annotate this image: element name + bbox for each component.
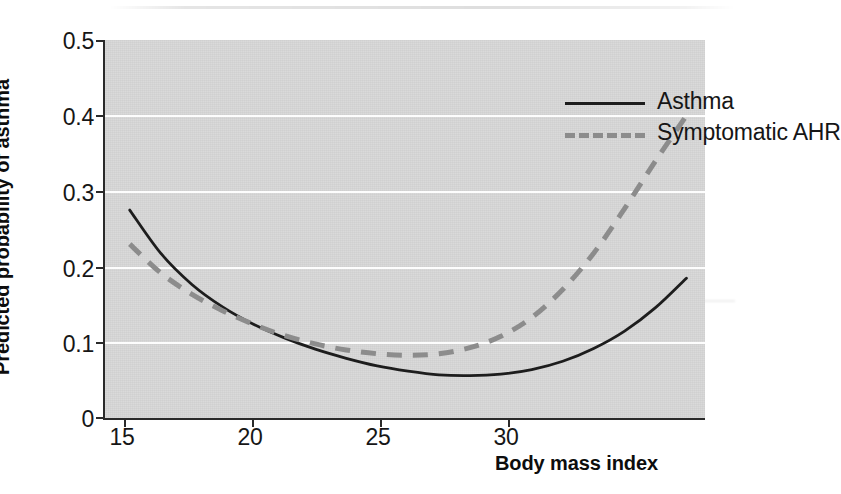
legend-swatch-solid-icon (565, 102, 645, 105)
y-tick-0.5 (96, 40, 105, 42)
x-tick-label-20: 20 (237, 424, 262, 451)
x-tick-15 (124, 418, 126, 427)
y-tick-0.3 (96, 191, 105, 193)
legend: Asthma Symptomatic AHR (565, 88, 815, 150)
series-line-asthma (130, 210, 687, 376)
y-tick-label-0.1: 0.1 (48, 331, 94, 358)
plot-area: Asthma Symptomatic AHR (103, 40, 705, 420)
x-tick-label-30: 30 (493, 424, 518, 451)
y-tick-0 (96, 417, 105, 419)
y-tick-label-0.5: 0.5 (48, 28, 94, 55)
y-tick-0.2 (96, 267, 105, 269)
legend-item-asthma: Asthma (565, 88, 815, 119)
legend-label-asthma: Asthma (657, 88, 734, 115)
series-line-symptomatic-ahr (130, 116, 687, 356)
x-tick-30 (508, 418, 510, 427)
legend-label-symptomatic-ahr: Symptomatic AHR (657, 119, 841, 146)
legend-swatch-dashed-icon (565, 133, 645, 138)
y-tick-label-0.2: 0.2 (48, 256, 94, 283)
x-tick-20 (252, 418, 254, 427)
scan-artifact-top (110, 6, 735, 9)
x-axis-title: Body mass index (495, 452, 658, 475)
y-tick-label-0.4: 0.4 (48, 104, 94, 131)
y-tick-0.1 (96, 342, 105, 344)
x-tick-label-25: 25 (365, 424, 390, 451)
y-axis-title: Predicted probability of asthma (0, 47, 14, 407)
x-tick-25 (380, 418, 382, 427)
y-tick-0.4 (96, 115, 105, 117)
x-tick-label-15: 15 (109, 424, 134, 451)
legend-item-symptomatic-ahr: Symptomatic AHR (565, 119, 815, 150)
y-tick-label-0: 0 (48, 406, 94, 433)
y-tick-label-0.3: 0.3 (48, 180, 94, 207)
